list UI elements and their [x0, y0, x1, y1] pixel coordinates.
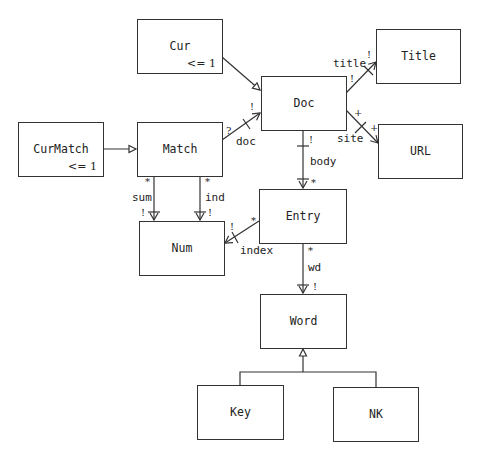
mult-body-src: ! — [309, 134, 313, 145]
mult-sum-src: * — [145, 176, 150, 187]
node-multiplicity: <= 1 — [68, 160, 97, 173]
label-wd: wd — [308, 261, 321, 274]
node-match[interactable]: Match — [137, 122, 223, 177]
mult-body-dst: * — [311, 177, 316, 188]
mult-site-src: + — [354, 107, 362, 118]
node-doc[interactable]: Doc — [261, 76, 347, 131]
label-site: site — [337, 132, 364, 145]
node-url[interactable]: URL — [378, 124, 463, 179]
node-nk[interactable]: NK — [333, 387, 419, 442]
node-label: Word — [261, 314, 346, 328]
label-index: index — [240, 244, 273, 257]
node-word[interactable]: Word — [260, 294, 347, 349]
edge-cur-doc — [222, 57, 260, 90]
edge-ind: * ind ! — [194, 176, 225, 220]
node-label: Title — [377, 49, 460, 63]
node-label: Key — [198, 405, 283, 419]
edge-wd: * wd ! — [297, 243, 321, 293]
label-doc: doc — [236, 135, 256, 148]
mult-title-dst: ! — [367, 49, 371, 60]
label-title: title — [333, 57, 366, 70]
mult-sum-dst: ! — [141, 207, 145, 218]
mult-index-src: * — [251, 215, 256, 226]
edge-doc: ? doc ! — [222, 101, 260, 148]
label-sum: sum — [132, 191, 152, 204]
node-label: Doc — [262, 96, 346, 110]
node-num[interactable]: Num — [139, 221, 225, 276]
mult-doc-dst: ! — [250, 101, 254, 112]
edge-sum: * sum ! — [132, 176, 160, 220]
node-curmatch[interactable]: CurMatch <= 1 — [18, 122, 104, 177]
node-cur[interactable]: Cur <= 1 — [137, 19, 223, 74]
node-label: Cur — [138, 39, 222, 53]
edge-body: ! body * — [297, 130, 337, 188]
mult-ind-dst: ! — [208, 207, 212, 218]
node-label: NK — [334, 407, 418, 421]
node-label: URL — [379, 144, 462, 158]
node-title[interactable]: Title — [376, 29, 461, 84]
mult-doc-src: ? — [226, 125, 231, 136]
label-ind: ind — [205, 191, 225, 204]
mult-ind-src: * — [205, 176, 210, 187]
object-model-diagram: ? doc ! title ! ! + site + ! body * — [0, 0, 479, 455]
mult-wd-dst: ! — [313, 281, 317, 292]
edge-word-generalization — [240, 349, 376, 387]
node-label: Entry — [260, 209, 346, 223]
mult-index-dst: ! — [230, 221, 234, 232]
node-multiplicity: <= 1 — [187, 57, 216, 70]
node-entry[interactable]: Entry — [259, 189, 347, 244]
node-label: CurMatch — [19, 142, 103, 156]
mult-title-src: ! — [350, 73, 354, 84]
node-label: Num — [140, 241, 224, 255]
label-body: body — [310, 155, 337, 168]
mult-wd-src: * — [308, 245, 313, 256]
node-key[interactable]: Key — [197, 385, 284, 440]
node-label: Match — [138, 142, 222, 156]
